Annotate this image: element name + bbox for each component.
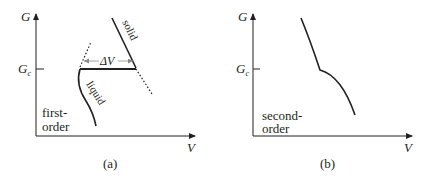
solid-metastable-dotted [136,69,152,94]
delta-v-label: ΔV [100,55,114,68]
critical-g-sub: c [27,69,31,78]
delta-v-text: ΔV [100,54,114,68]
x-axis-label: V [404,141,412,154]
y-axis-label: G [238,10,247,23]
liquid-metastable-dotted [80,42,91,67]
panel-caption: (b) [320,157,335,170]
y-axis-label: G [21,10,30,23]
transition-type-line1: first- [42,106,67,119]
solid-label: solid [120,18,140,43]
critical-g-main: G [18,61,27,76]
critical-g-sub: c [245,69,249,78]
transition-type-line2: order [42,120,69,133]
x-axis-label: V [187,141,195,154]
critical-g-label: Gc [18,62,31,77]
critical-g-main: G [236,61,245,76]
transition-type-line2: order [262,122,289,135]
critical-g-label: Gc [236,62,249,77]
g-curve [301,18,355,115]
phase-transition-diagram: solid liquid [0,0,423,185]
panel-caption: (a) [103,157,117,170]
